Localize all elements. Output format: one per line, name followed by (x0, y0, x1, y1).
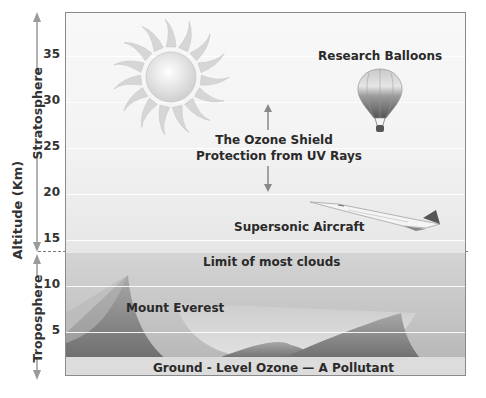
tick-30: 30 (38, 93, 60, 107)
sun-icon (108, 18, 234, 136)
altitude-axis-label: Altitude (Km) (10, 170, 25, 260)
ozone-up-arrow-icon (261, 104, 275, 130)
gridline-10 (66, 286, 465, 287)
balloon-icon (355, 66, 405, 136)
ozone-shield-subtitle: Protection from UV Rays (196, 149, 352, 163)
gridline-20 (66, 194, 465, 195)
supersonic-aircraft-label: Supersonic Aircraft (234, 220, 365, 234)
tick-10: 10 (38, 277, 60, 291)
tick-5: 5 (38, 323, 60, 337)
gridline-5 (66, 332, 465, 333)
research-balloons-label: Research Balloons (318, 49, 442, 63)
tick-20: 20 (38, 185, 60, 199)
tick-15: 15 (38, 231, 60, 245)
cloud-limit-label: Limit of most clouds (203, 255, 340, 269)
ozone-down-arrow-icon (261, 166, 275, 192)
gridline-15 (66, 240, 465, 241)
tick-25: 25 (38, 139, 60, 153)
tick-35: 35 (38, 47, 60, 61)
ground-level-ozone-label: Ground - Level Ozone — A Pollutant (153, 361, 394, 375)
ozone-shield-title: The Ozone Shield (214, 133, 334, 147)
mount-everest-label: Mount Everest (126, 301, 224, 315)
